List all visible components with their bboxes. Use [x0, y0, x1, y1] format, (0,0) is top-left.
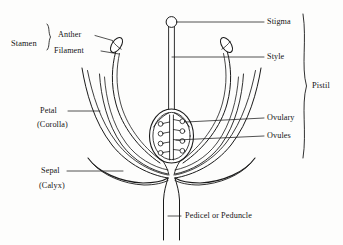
stamen-brace	[47, 24, 51, 50]
label-filament: Filament	[54, 47, 84, 55]
label-calyx: (Calyx)	[39, 182, 65, 190]
label-style: Style	[267, 53, 284, 61]
label-anther: Anther	[58, 31, 81, 39]
leader-ovulary	[186, 118, 264, 122]
label-sepal: Sepal	[41, 167, 60, 175]
pedicel-shape	[164, 178, 180, 240]
label-corolla: (Corolla)	[37, 121, 68, 129]
label-stamen: Stamen	[11, 40, 37, 48]
label-pistil: Pistil	[312, 82, 330, 90]
anther-right	[218, 35, 235, 54]
pistil-brace	[303, 14, 307, 158]
label-petal: Petal	[40, 107, 57, 115]
style-shape	[169, 27, 175, 113]
flower-diagram: Stamen Anther Filament Petal (Corolla) S…	[0, 0, 343, 245]
anther-left	[108, 35, 125, 54]
label-pedicel: Pedicel or Peduncle	[185, 212, 252, 220]
leader-anther	[95, 36, 113, 41]
label-stigma: Stigma	[267, 18, 291, 26]
label-ovules: Ovules	[267, 132, 291, 140]
stigma-shape	[166, 17, 177, 28]
label-ovulary: Ovulary	[267, 114, 295, 122]
ovulary-shape	[150, 109, 194, 175]
